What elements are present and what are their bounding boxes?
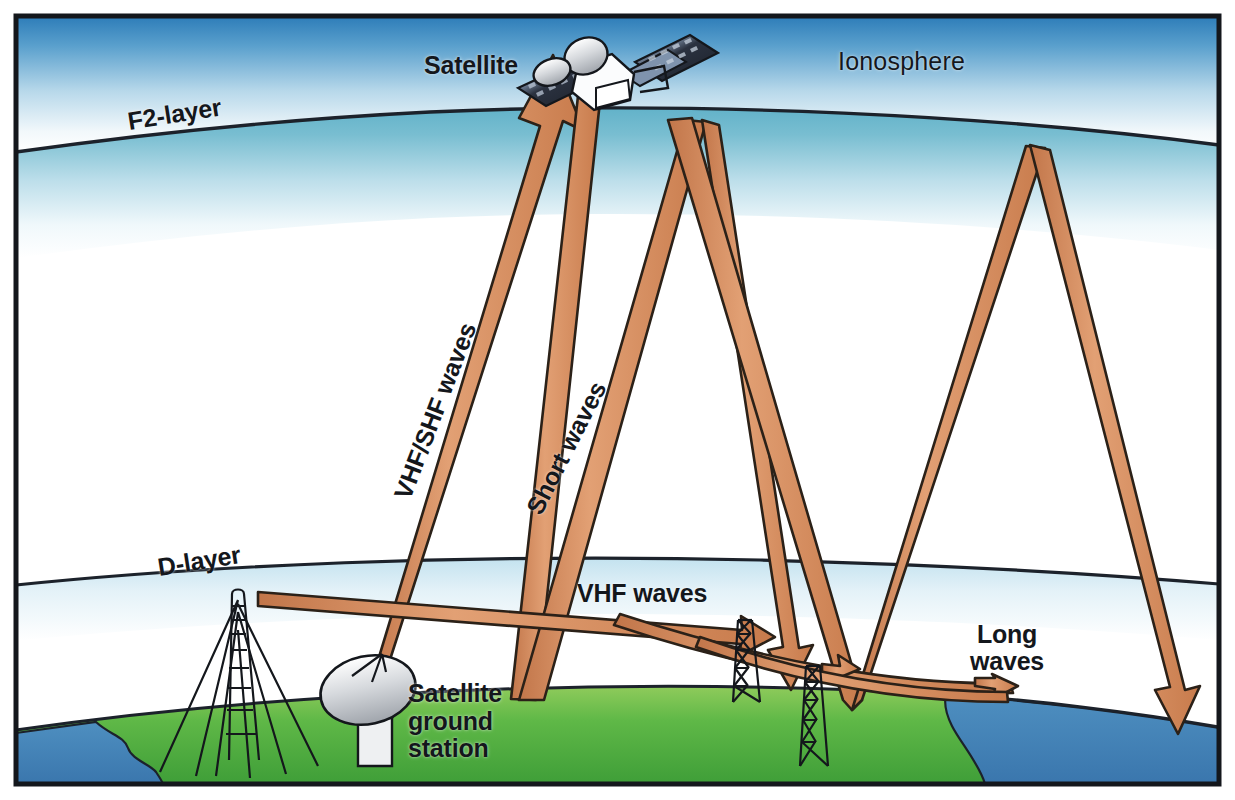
label-long-waves: Long waves [970,621,1044,674]
earth-surface [16,686,1219,784]
label-satellite-ground-station: Satellite ground station [408,680,502,763]
label-satellite: Satellite [424,52,518,79]
label-ionosphere: Ionosphere [838,48,965,75]
diagram-canvas: Ionosphere F2-layer D-layer Satellite VH… [0,0,1235,800]
label-vhf-waves: VHF waves [577,580,707,607]
